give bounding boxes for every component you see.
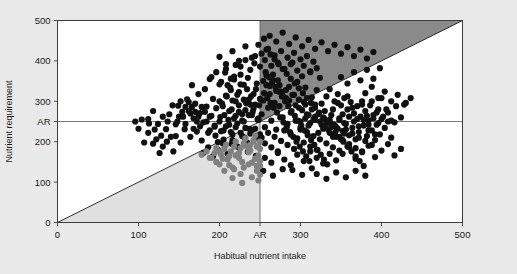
data-point — [229, 48, 235, 54]
data-point — [344, 80, 350, 86]
data-point — [349, 125, 355, 131]
data-point — [359, 149, 365, 155]
data-point — [173, 133, 179, 139]
data-point — [278, 138, 284, 144]
data-point — [370, 49, 376, 55]
data-point — [237, 130, 243, 136]
data-point — [301, 63, 307, 69]
data-point — [372, 154, 378, 160]
data-point — [314, 171, 320, 177]
data-point — [139, 116, 145, 122]
data-point — [178, 139, 184, 145]
data-point — [365, 143, 371, 149]
data-point — [312, 46, 318, 52]
data-point — [324, 161, 330, 167]
data-point — [333, 169, 339, 175]
data-point — [187, 134, 193, 140]
data-point — [265, 130, 271, 136]
data-point — [401, 101, 407, 107]
data-point — [317, 136, 323, 142]
data-point — [208, 74, 214, 80]
data-point — [356, 129, 362, 135]
data-point — [302, 101, 308, 107]
data-point — [234, 92, 240, 98]
data-point — [242, 107, 248, 113]
data-point — [237, 81, 243, 87]
data-point — [341, 120, 347, 126]
data-point — [207, 114, 213, 120]
data-point — [325, 48, 331, 54]
data-point — [352, 156, 358, 162]
data-point — [216, 118, 222, 124]
y-tick-label: 0 — [45, 217, 50, 228]
data-point — [223, 61, 229, 67]
data-point — [294, 68, 300, 74]
x-tick-label: 200 — [212, 229, 228, 240]
data-point — [267, 51, 273, 57]
data-point — [346, 114, 352, 120]
data-point — [242, 125, 248, 131]
x-axis-title: Habitual nutrient intake — [214, 251, 306, 261]
data-point — [280, 30, 286, 36]
data-point — [229, 97, 235, 103]
y-axis: 0100200AR300400500 — [35, 15, 58, 228]
data-point — [255, 143, 261, 149]
data-point — [333, 157, 339, 163]
x-tick-label: 500 — [455, 229, 471, 240]
data-point — [398, 114, 404, 120]
data-point — [221, 168, 227, 174]
data-point — [388, 135, 394, 141]
data-point — [320, 114, 326, 120]
data-point — [236, 102, 242, 108]
data-point — [262, 57, 268, 63]
data-point — [354, 116, 360, 122]
data-point — [299, 172, 305, 178]
data-point — [251, 60, 257, 66]
data-point — [182, 121, 188, 127]
data-point — [271, 56, 277, 62]
data-point — [197, 123, 203, 129]
data-point — [330, 106, 336, 112]
data-point — [257, 63, 263, 69]
data-point — [228, 129, 234, 135]
data-point — [223, 93, 229, 99]
data-point — [302, 84, 308, 90]
data-point — [178, 98, 184, 104]
data-point — [380, 114, 386, 120]
data-point — [348, 99, 354, 105]
data-point — [249, 112, 255, 118]
data-point — [263, 46, 269, 52]
data-point — [388, 118, 394, 124]
data-point — [283, 87, 289, 93]
data-point — [359, 101, 365, 107]
y-tick-label: 300 — [35, 96, 51, 107]
data-point — [322, 108, 328, 114]
data-point — [291, 50, 297, 56]
data-point — [141, 139, 147, 145]
data-point — [255, 117, 261, 123]
scatter-plot: 0100200AR300400500 0100200AR300400500 Ha… — [0, 0, 517, 274]
data-point — [357, 46, 363, 52]
data-point — [169, 102, 175, 108]
data-point — [356, 135, 362, 141]
data-point — [220, 103, 226, 109]
x-tick-label: 400 — [374, 229, 390, 240]
data-point — [323, 93, 329, 99]
y-tick-label: 400 — [35, 55, 51, 66]
data-point — [155, 121, 161, 127]
data-point — [229, 175, 235, 181]
data-point — [221, 146, 227, 152]
data-point — [391, 152, 397, 158]
data-point — [304, 53, 310, 59]
data-point — [332, 129, 338, 135]
data-point — [202, 86, 208, 92]
data-point — [207, 127, 213, 133]
data-point — [308, 100, 314, 106]
data-point — [375, 95, 381, 101]
data-point — [346, 144, 352, 150]
data-point — [249, 174, 255, 180]
data-point — [370, 115, 376, 121]
data-point — [268, 63, 274, 69]
data-point — [372, 131, 378, 137]
y-tick-label: 200 — [35, 136, 51, 147]
